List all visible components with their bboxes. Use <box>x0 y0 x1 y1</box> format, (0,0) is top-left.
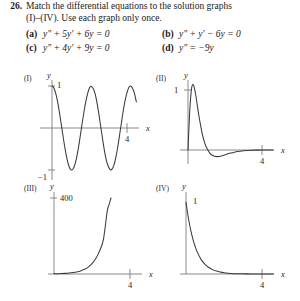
graph-II-y-axis-label: y <box>183 72 188 80</box>
graph-IV-xtick-label: 4 <box>260 280 265 290</box>
graph-panel-I: (I) y x 1 −1 4 <box>24 72 169 184</box>
graph-II-plot: y x 1 4 <box>156 72 300 184</box>
graph-I-y-axis-label: y <box>46 72 51 80</box>
graph-IV-ytick-top-label: 1 <box>193 196 197 206</box>
choice-d: (d) y″ = −9y <box>162 42 294 54</box>
problem-prompt-line2: (I)–(IV). Use each graph only once. <box>26 12 292 24</box>
choice-c: (c) y″ + 4y′ + 9y = 0 <box>26 42 162 54</box>
exercise-page: 26. Match the differential equations to … <box>0 0 300 301</box>
choice-a-equation: y″ + 5y′ + 6y = 0 <box>43 28 109 40</box>
choice-d-label: (d) <box>162 42 179 54</box>
choice-a-label: (a) <box>26 28 43 40</box>
graph-I-xtick-label: 4 <box>125 134 130 144</box>
graph-IV-y-axis-label: y <box>181 182 186 191</box>
graph-III-xtick-label: 4 <box>128 280 133 290</box>
graph-panel-III: (III) y x 400 4 <box>24 182 169 294</box>
graph-IV-plot: y x 1 4 <box>156 182 300 294</box>
exercise-number: 26. <box>0 0 26 12</box>
graph-III-curve <box>54 198 111 274</box>
graph-II-xtick-label: 4 <box>260 156 265 166</box>
graph-I-x-axis-label: x <box>145 123 150 133</box>
choice-c-equation: y″ + 4y′ + 9y = 0 <box>43 42 109 54</box>
choice-c-label: (c) <box>26 42 43 54</box>
graph-panel-II: (II) y x 1 4 <box>156 72 300 184</box>
graph-III-ytick-top-label: 400 <box>60 193 73 203</box>
problem-statement: 26. Match the differential equations to … <box>0 0 300 24</box>
graph-III-plot: y x 400 4 <box>24 182 169 294</box>
graph-II-x-axis-label: x <box>280 145 285 155</box>
problem-prompt-line1: Match the differential equations to the … <box>26 0 292 12</box>
graph-IV-curve <box>186 202 273 274</box>
graph-II-curve <box>188 85 273 157</box>
graph-III-y-axis-label: y <box>49 182 54 191</box>
graph-I-ytick-bottom-label: −1 <box>38 172 47 182</box>
choices-list: (a) y″ + 5y′ + 6y = 0 (b) y″ + y′ − 6y =… <box>26 28 294 54</box>
graph-panel-IV: (IV) y x 1 4 <box>156 182 300 294</box>
graph-I-plot: y x 1 −1 4 <box>24 72 169 184</box>
graph-III-axes <box>48 192 142 279</box>
choice-b-label: (b) <box>162 28 179 40</box>
graph-I-axes <box>40 80 139 180</box>
problem-first-line: 26. Match the differential equations to … <box>0 0 300 12</box>
graph-I-ytick-top-label: 1 <box>57 80 61 90</box>
graph-IV-x-axis-label: x <box>280 269 285 279</box>
graph-III-x-axis-label: x <box>148 269 153 279</box>
choice-b-equation: y″ + y′ − 6y = 0 <box>179 28 241 40</box>
graph-II-ytick-top-label: 1 <box>174 85 178 95</box>
choice-b: (b) y″ + y′ − 6y = 0 <box>162 28 294 40</box>
choice-d-equation: y″ = −9y <box>179 42 214 54</box>
choice-a: (a) y″ + 5y′ + 6y = 0 <box>26 28 162 40</box>
graph-II-axes <box>180 80 274 164</box>
